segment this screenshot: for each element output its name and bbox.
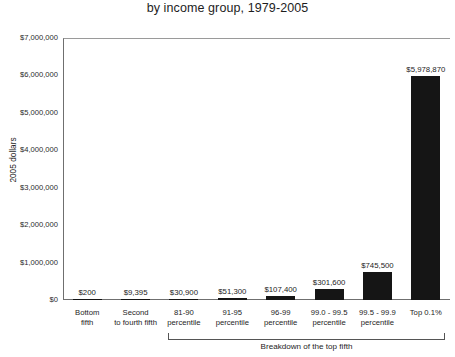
- bar: [73, 299, 102, 300]
- bar: [266, 296, 295, 300]
- y-axis-tick-label: $4,000,000: [0, 145, 58, 154]
- bar: [411, 76, 440, 300]
- y-axis-tick-label: $6,000,000: [0, 70, 58, 79]
- bar-value-label: $301,600: [289, 278, 369, 287]
- y-axis-tick-label: $1,000,000: [0, 258, 58, 267]
- bar: [218, 298, 247, 300]
- y-axis-tick-label: $2,000,000: [0, 220, 58, 229]
- y-axis-tick-label: $7,000,000: [0, 33, 58, 42]
- top-fifth-bracket: [168, 333, 445, 340]
- y-axis-tick-label: $3,000,000: [0, 183, 58, 192]
- x-label-line-1: Top 0.1%: [392, 308, 455, 318]
- x-axis-category-label: Top 0.1%: [392, 308, 455, 318]
- x-label-line-2: percentile: [343, 318, 411, 328]
- y-axis-tick-label: $5,000,000: [0, 108, 58, 117]
- top-fifth-bracket-label: Breakdown of the top fifth: [168, 342, 445, 351]
- chart-root: by income group, 1979-2005 2005 dollars …: [0, 0, 455, 357]
- bar: [363, 272, 392, 300]
- bar-value-label: $5,978,870: [386, 65, 455, 74]
- bar: [315, 289, 344, 300]
- bar: [169, 299, 198, 300]
- bar-value-label: $745,500: [337, 261, 417, 270]
- bar: [121, 299, 150, 300]
